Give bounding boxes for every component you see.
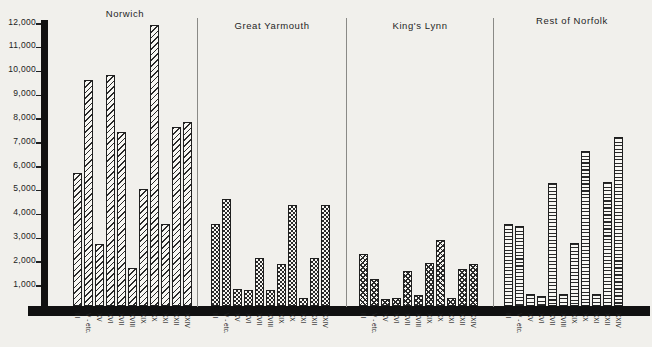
- x-tick-label: XX: [581, 313, 590, 347]
- x-tick-label: XVII: [117, 313, 126, 347]
- bar: [73, 173, 82, 306]
- x-tick-label: XXIV: [321, 313, 330, 347]
- panel-title: King's Lynn: [347, 20, 493, 31]
- x-tick-label: XXIV: [469, 313, 478, 347]
- x-tick-label: XV: [526, 313, 535, 347]
- x-tick-label: XVII: [255, 313, 264, 347]
- bar: [84, 80, 93, 306]
- x-tick-label: XVIII: [559, 313, 568, 347]
- bar: [128, 268, 137, 306]
- y-tick-label: 6,000: [0, 161, 36, 170]
- bar: [414, 295, 423, 306]
- bar: [161, 224, 170, 306]
- bar: [559, 294, 568, 306]
- bar: [614, 137, 623, 306]
- bar: [526, 294, 535, 306]
- bar: [370, 279, 379, 306]
- panel-title: Norwich: [53, 8, 197, 19]
- bar: [403, 271, 412, 306]
- x-tick-label: XX: [150, 313, 159, 347]
- y-tick-label: 2,000: [0, 256, 36, 265]
- y-tick-label: 10,000: [0, 65, 36, 74]
- bar: [117, 132, 126, 306]
- x-labels-row: IIIV - etc.XVXVIXVIIXVIIIXIXXXXXIXXIIXXI…: [359, 313, 478, 347]
- x-tick-label: XV: [95, 313, 104, 347]
- x-labels-row: IIIV - etc.XVXVIXVIIXVIIIXIXXXXXIXXIIXXI…: [73, 313, 192, 347]
- bar: [504, 224, 513, 306]
- y-tick-label: 8,000: [0, 113, 36, 122]
- x-labels-row: IIIV - etc.XVXVIXVIIXVIIIXIXXXXXIXXIIXXI…: [211, 313, 330, 347]
- bar: [321, 205, 330, 306]
- x-tick-label: XXI: [161, 313, 170, 347]
- bars-row: [359, 240, 478, 306]
- bar: [592, 294, 601, 306]
- x-tick-label: V - etc.: [370, 313, 379, 347]
- bar: [425, 263, 434, 306]
- x-tick-label: V - etc.: [515, 313, 524, 347]
- x-tick-label: XX: [436, 313, 445, 347]
- panel-norwich: NorwichIIIV - etc.XVXVIXVIIXVIIIXIXXXXXI…: [53, 0, 197, 347]
- y-tick-label: 11,000: [0, 41, 36, 50]
- x-tick-label: XV: [233, 313, 242, 347]
- x-tick-label: XIX: [139, 313, 148, 347]
- x-tick-label: XXIV: [614, 313, 623, 347]
- bars-row: [504, 137, 623, 306]
- x-tick-label: XVIII: [128, 313, 137, 347]
- panel-king-s-lynn: King's LynnIIIV - etc.XVXVIXVIIXVIIIXIXX…: [347, 0, 493, 347]
- x-labels-row: IIIV - etc.XVXVIXVIIXVIIIXIXXXXXIXXIIXXI…: [504, 313, 623, 347]
- bar: [310, 258, 319, 306]
- bar: [299, 298, 308, 306]
- bar: [211, 224, 220, 306]
- x-tick-label: XX: [288, 313, 297, 347]
- x-tick-label: V - etc.: [84, 313, 93, 347]
- x-tick-label: XVII: [548, 313, 557, 347]
- x-tick-label: XXIV: [183, 313, 192, 347]
- x-tick-label: XVI: [244, 313, 253, 347]
- y-axis-line: [41, 20, 48, 308]
- x-tick-label: III: [211, 313, 220, 347]
- bar: [222, 199, 231, 306]
- bar: [255, 258, 264, 306]
- y-tick-label: 7,000: [0, 137, 36, 146]
- bar: [447, 298, 456, 306]
- x-tick-label: XVIII: [414, 313, 423, 347]
- bar: [233, 289, 242, 306]
- x-tick-label: XXII: [172, 313, 181, 347]
- bar: [548, 183, 557, 306]
- bar: [392, 298, 401, 306]
- x-tick-label: XV: [381, 313, 390, 347]
- bar: [266, 290, 275, 306]
- bar: [359, 254, 368, 306]
- bar: [458, 269, 467, 306]
- bar: [139, 189, 148, 306]
- bar: [244, 290, 253, 306]
- bars-row: [73, 25, 192, 306]
- x-tick-label: XXI: [447, 313, 456, 347]
- x-tick-label: III: [73, 313, 82, 347]
- bar: [515, 226, 524, 306]
- x-tick-label: XXI: [592, 313, 601, 347]
- x-tick-label: XXI: [299, 313, 308, 347]
- x-tick-label: XIX: [277, 313, 286, 347]
- x-tick-label: XVIII: [266, 313, 275, 347]
- y-tick-label: 9,000: [0, 89, 36, 98]
- bar: [277, 264, 286, 306]
- x-tick-label: XIX: [570, 313, 579, 347]
- x-tick-label: XIX: [425, 313, 434, 347]
- bars-row: [211, 199, 330, 306]
- panel-rest-of-norfolk: Rest of NorfolkIIIV - etc.XVXVIXVIIXVIII…: [494, 0, 650, 347]
- bar: [537, 296, 546, 306]
- x-tick-label: XVI: [106, 313, 115, 347]
- x-tick-label: XVI: [537, 313, 546, 347]
- bar: [436, 240, 445, 306]
- bar: [106, 75, 115, 306]
- x-tick-label: III: [504, 313, 513, 347]
- bar: [469, 264, 478, 306]
- y-tick-label: 5,000: [0, 184, 36, 193]
- x-tick-label: XXII: [310, 313, 319, 347]
- x-tick-label: XXII: [603, 313, 612, 347]
- bar: [183, 122, 192, 306]
- y-tick-label: 1,000: [0, 280, 36, 289]
- historic-bar-chart: 12,00011,00010,0009,0008,0007,0006,0005,…: [0, 0, 652, 347]
- bar: [150, 25, 159, 306]
